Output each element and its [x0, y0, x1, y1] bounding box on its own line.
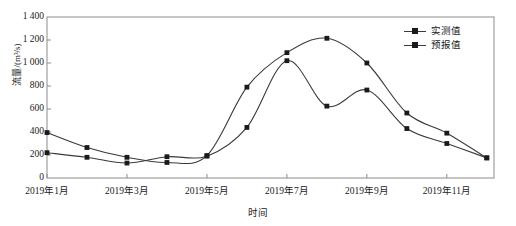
legend-marker-icon — [404, 26, 426, 36]
legend-item-forecast: 预报值 — [404, 38, 461, 52]
x-tick-label: 2019年9月 — [345, 186, 389, 196]
x-tick-label: 2019年5月 — [185, 186, 229, 196]
legend-item-measured: 实测值 — [404, 24, 461, 38]
x-tick-label: 2019年3月 — [105, 186, 149, 196]
legend-label: 预报值 — [431, 39, 461, 52]
x-tick-label: 2019年1月 — [25, 186, 69, 196]
chart-container: 流量/(m³/s) 02004006008001 0001 2001 400 2… — [0, 0, 516, 226]
x-axis-title: 时间 — [248, 205, 268, 219]
legend-marker-icon — [404, 40, 426, 50]
x-tick-label: 2019年11月 — [423, 186, 471, 196]
x-tick-label: 2019年7月 — [265, 186, 309, 196]
legend-label: 实测值 — [431, 25, 461, 38]
chart-legend: 实测值 预报值 — [404, 24, 461, 52]
